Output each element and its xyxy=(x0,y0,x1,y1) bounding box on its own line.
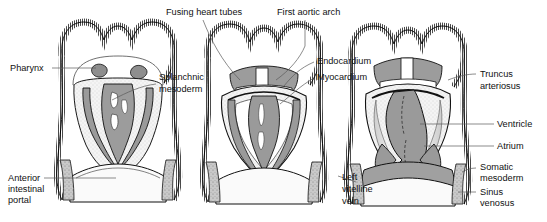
label-endocardium: Endocardium xyxy=(317,56,371,66)
embryo-heart-fusion-figure: Pharynx Splanchnic mesoderm Anterior int… xyxy=(0,0,547,222)
label-left-vitelline-vein-line1: Left xyxy=(342,172,358,182)
anterior-intestinal-portal-1 xyxy=(70,164,167,202)
label-anterior-intestinal-portal-line1: Anterior xyxy=(8,173,40,183)
label-anterior-intestinal-portal-line2: intestinal xyxy=(8,184,44,194)
lumen-void-a-1 xyxy=(111,92,118,108)
label-first-aortic-arch: First aortic arch xyxy=(277,7,340,17)
endocardial-tube-right-1 xyxy=(130,65,147,79)
label-somatic-mesoderm-line2: mesoderm xyxy=(480,173,524,183)
label-splanchnic-mesoderm-line1: Splanchnic xyxy=(159,72,204,82)
label-sinus-venosus-line1: Sinus xyxy=(480,187,503,197)
label-truncus-arteriosus-line2: arteriosus xyxy=(480,81,521,91)
label-sinus-venosus-line2: venosus xyxy=(480,198,515,208)
tube-lumen-void-2 xyxy=(259,104,264,126)
label-anterior-intestinal-portal-line3: portal xyxy=(8,195,31,205)
label-fusing-heart-tubes: Fusing heart tubes xyxy=(166,7,243,17)
label-left-vitelline-vein-line3: vein xyxy=(342,196,359,206)
label-truncus-arteriosus-line1: Truncus xyxy=(480,69,513,79)
label-left-vitelline-vein-line2: vitelline xyxy=(342,184,373,194)
label-splanchnic-mesoderm-line2: mesoderm xyxy=(159,84,203,94)
label-pharynx: Pharynx xyxy=(10,63,44,73)
label-atrium: Atrium xyxy=(497,141,524,151)
endocardial-tube-left-1 xyxy=(92,64,108,77)
label-ventricle: Ventricle xyxy=(497,119,532,129)
label-myocardium: Myocardium xyxy=(317,72,367,82)
label-somatic-mesoderm-line1: Somatic xyxy=(480,162,514,172)
diagram-canvas: Pharynx Splanchnic mesoderm Anterior int… xyxy=(0,0,547,222)
